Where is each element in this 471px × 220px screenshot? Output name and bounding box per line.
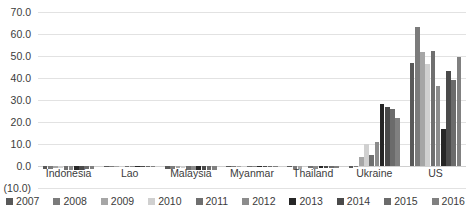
category-label: US xyxy=(428,166,443,180)
legend-swatch-icon xyxy=(432,198,439,205)
bar xyxy=(385,107,390,166)
bar-cluster xyxy=(38,12,99,188)
bar xyxy=(431,51,436,167)
bar-cluster xyxy=(405,12,466,188)
category-label: Myanmar xyxy=(230,166,274,180)
y-axis-tick-label: 50.0 xyxy=(11,51,31,62)
legend-item[interactable]: 2010 xyxy=(148,196,181,207)
bar xyxy=(395,118,400,166)
legend-item[interactable]: 2013 xyxy=(289,196,322,207)
legend-swatch-icon xyxy=(196,198,203,205)
bar xyxy=(375,142,380,166)
legend-swatch-icon xyxy=(101,198,108,205)
legend-label: 2009 xyxy=(111,196,134,207)
y-axis-tick-label: 30.0 xyxy=(11,95,31,106)
category-axis: IndonesiaLaoMalaysiaMyanmarThailandUkrai… xyxy=(38,166,466,182)
bar-cluster xyxy=(99,12,160,188)
bar xyxy=(457,57,462,166)
legend-label: 2016 xyxy=(442,196,465,207)
bar xyxy=(369,155,374,166)
legend-item[interactable]: 2014 xyxy=(337,196,370,207)
bar xyxy=(446,71,451,166)
legend-item[interactable]: 2015 xyxy=(384,196,417,207)
bar xyxy=(410,63,415,166)
legend-label: 2015 xyxy=(394,196,417,207)
bar-cluster xyxy=(344,12,405,188)
legend-swatch-icon xyxy=(289,198,296,205)
bar xyxy=(425,64,430,166)
legend-label: 2008 xyxy=(63,196,86,207)
y-axis-tick-label: 70.0 xyxy=(11,7,31,18)
bars-layer xyxy=(38,12,466,188)
y-axis: 70.060.050.040.030.020.010.00.0(10.0) xyxy=(0,12,36,188)
bar xyxy=(380,104,385,166)
y-axis-tick-label: 10.0 xyxy=(11,139,31,150)
y-axis-tick-label: 40.0 xyxy=(11,73,31,84)
y-axis-tick-label: (10.0) xyxy=(4,183,31,194)
bar-cluster xyxy=(283,12,344,188)
legend: 2007200820092010201120122013201420152016 xyxy=(0,196,471,207)
y-axis-tick-label: 0.0 xyxy=(16,161,31,172)
bar-chart: 70.060.050.040.030.020.010.00.0(10.0) In… xyxy=(0,0,471,220)
legend-swatch-icon xyxy=(337,198,344,205)
legend-label: 2007 xyxy=(16,196,39,207)
legend-label: 2014 xyxy=(347,196,370,207)
y-axis-tick-label: 20.0 xyxy=(11,117,31,128)
plot-area xyxy=(38,12,466,188)
category-label: Ukraine xyxy=(356,166,392,180)
y-axis-tick-label: 60.0 xyxy=(11,29,31,40)
legend-item[interactable]: 2012 xyxy=(242,196,275,207)
bar xyxy=(364,144,369,166)
chart-title xyxy=(38,0,466,4)
legend-label: 2012 xyxy=(252,196,275,207)
legend-item[interactable]: 2011 xyxy=(196,196,229,207)
bar-cluster xyxy=(221,12,282,188)
bar xyxy=(451,80,456,166)
category-label: Thailand xyxy=(293,166,333,180)
bar xyxy=(441,129,446,166)
legend-label: 2013 xyxy=(299,196,322,207)
legend-label: 2011 xyxy=(206,196,229,207)
legend-item[interactable]: 2009 xyxy=(101,196,134,207)
legend-swatch-icon xyxy=(148,198,155,205)
category-label: Lao xyxy=(121,166,139,180)
legend-item[interactable]: 2007 xyxy=(6,196,39,207)
legend-swatch-icon xyxy=(242,198,249,205)
bar xyxy=(415,27,420,166)
gridline xyxy=(38,188,466,189)
bar xyxy=(420,52,425,166)
bar xyxy=(359,157,364,166)
legend-swatch-icon xyxy=(384,198,391,205)
legend-swatch-icon xyxy=(6,198,13,205)
legend-label: 2010 xyxy=(158,196,181,207)
category-label: Indonesia xyxy=(46,166,92,180)
bar xyxy=(436,86,441,166)
legend-swatch-icon xyxy=(53,198,60,205)
category-label: Malaysia xyxy=(170,166,211,180)
bar-cluster xyxy=(160,12,221,188)
bar xyxy=(390,109,395,166)
legend-item[interactable]: 2008 xyxy=(53,196,86,207)
legend-item[interactable]: 2016 xyxy=(432,196,465,207)
